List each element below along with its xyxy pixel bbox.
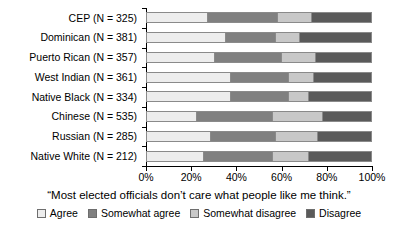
bar-segment [275, 33, 300, 42]
y-axis-tick [142, 107, 146, 108]
bar-segment [313, 73, 371, 82]
bar-segment [272, 152, 308, 161]
bar-segment [147, 33, 225, 42]
bar-segment [214, 53, 281, 62]
bar-segment [288, 92, 308, 101]
x-axis-tick-label: 40% [226, 172, 247, 183]
bar-row [146, 87, 372, 107]
bar-row [146, 67, 372, 87]
bar-segment [225, 33, 274, 42]
stacked-bar [146, 131, 372, 142]
stacked-bar [146, 151, 372, 162]
plot-area [146, 8, 372, 166]
stacked-bar [146, 12, 372, 23]
legend-swatch-icon [37, 209, 46, 218]
legend-swatch-icon [190, 209, 199, 218]
legend-swatch-icon [306, 209, 315, 218]
category-label: CEP (N = 325) [0, 8, 142, 28]
chart-caption: “Most elected officials don’t care what … [0, 189, 398, 202]
bar-segment [299, 33, 371, 42]
bar-segment [207, 13, 276, 22]
bar-rows [146, 8, 372, 166]
category-label: Puerto Rican (N = 357) [0, 48, 142, 68]
bar-segment [147, 112, 196, 121]
legend-label: Somewhat disagree [203, 208, 296, 219]
x-axis-tick-label: 0% [138, 172, 153, 183]
bar-segment [147, 152, 203, 161]
y-axis-tick [142, 48, 146, 49]
bar-segment [196, 112, 272, 121]
y-axis-tick [142, 127, 146, 128]
legend-item: Somewhat agree [88, 208, 180, 219]
bar-segment [277, 13, 311, 22]
bar-row [146, 107, 372, 127]
bar-segment [147, 92, 230, 101]
legend-label: Agree [50, 208, 78, 219]
bar-segment [230, 92, 288, 101]
category-axis-labels: CEP (N = 325)Dominican (N = 381)Puerto R… [0, 8, 142, 166]
bar-segment [308, 152, 371, 161]
x-axis-tick-label: 80% [316, 172, 337, 183]
bar-segment [322, 112, 371, 121]
bar-segment [308, 92, 371, 101]
bar-segment [315, 53, 371, 62]
bar-segment [203, 152, 272, 161]
legend-item: Somewhat disagree [190, 208, 296, 219]
category-label: Chinese (N = 535) [0, 107, 142, 127]
bar-segment [230, 73, 288, 82]
y-axis-tick [142, 146, 146, 147]
x-axis-tick-label: 100% [359, 172, 386, 183]
bar-segment [147, 132, 210, 141]
stacked-bar [146, 72, 372, 83]
x-axis-tick-label: 60% [271, 172, 292, 183]
chart-legend: AgreeSomewhat agreeSomewhat disagreeDisa… [0, 208, 398, 219]
stacked-bar [146, 52, 372, 63]
legend-label: Somewhat agree [101, 208, 180, 219]
category-label: Native White (N = 212) [0, 146, 142, 166]
bar-segment [275, 132, 318, 141]
bar-row [146, 127, 372, 147]
bar-row [146, 8, 372, 28]
stacked-bar [146, 32, 372, 43]
bar-segment [147, 13, 207, 22]
category-label: Russian (N = 285) [0, 127, 142, 147]
y-axis-tick [142, 87, 146, 88]
legend-label: Disagree [319, 208, 361, 219]
legend-item: Disagree [306, 208, 361, 219]
y-axis-tick [142, 28, 146, 29]
bar-segment [210, 132, 275, 141]
stacked-bar [146, 111, 372, 122]
bar-segment [317, 132, 371, 141]
y-axis-tick [142, 67, 146, 68]
x-axis-tick-label: 20% [181, 172, 202, 183]
legend-swatch-icon [88, 209, 97, 218]
bar-row [146, 48, 372, 68]
x-axis-line [146, 166, 373, 167]
bar-segment [147, 73, 230, 82]
bar-segment [272, 112, 321, 121]
bar-row [146, 28, 372, 48]
stacked-bar-chart: CEP (N = 325)Dominican (N = 381)Puerto R… [0, 0, 398, 235]
stacked-bar [146, 91, 372, 102]
category-label: West Indian (N = 361) [0, 67, 142, 87]
category-label: Native Black (N = 334) [0, 87, 142, 107]
y-axis-tick [142, 8, 146, 9]
legend-item: Agree [37, 208, 78, 219]
category-label: Dominican (N = 381) [0, 28, 142, 48]
bar-segment [281, 53, 315, 62]
bar-segment [147, 53, 214, 62]
bar-segment [311, 13, 371, 22]
bar-row [146, 146, 372, 166]
bar-segment [288, 73, 313, 82]
